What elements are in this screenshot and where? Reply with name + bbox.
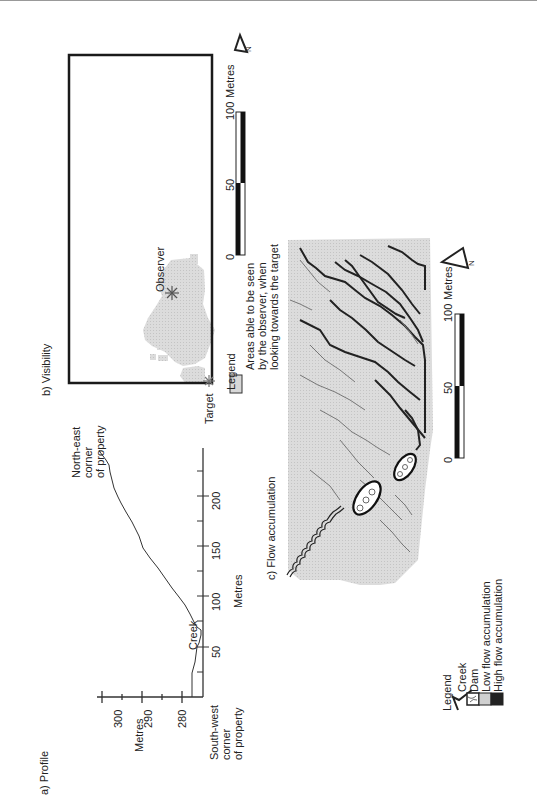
visibility-legend-title: Legend [225, 353, 237, 390]
profile-start-label-3: of property [232, 707, 244, 760]
flow-legend-low: Low flow accumulation [480, 581, 492, 692]
observer-label: Observer [154, 247, 166, 292]
profile-x-tick-200: 200 [210, 492, 222, 510]
flow-scale-bar [455, 314, 464, 458]
visibility-north-label: N [243, 46, 255, 52]
profile-y-tick-280: 280 [176, 710, 188, 728]
profile-creek-label: Creek [187, 621, 199, 650]
profile-x-axis-label: Metres [232, 574, 244, 608]
visibility-scale-100: 100 [224, 102, 236, 120]
visibility-legend-line-2: by the observer, when [256, 262, 268, 370]
profile-y-tick-290: 290 [142, 710, 154, 728]
profile-chart [97, 448, 209, 703]
flow-legend-creek: Creek [456, 663, 468, 692]
flow-north-label: N [466, 260, 478, 266]
flow-scale-50: 50 [442, 382, 454, 394]
visibility-scale-0: 0 [224, 254, 236, 260]
flow-accumulation-map [287, 238, 503, 710]
visibility-scale-bar [236, 112, 245, 255]
observer-marker [165, 286, 179, 300]
flow-scale-unit: Metres [442, 266, 454, 300]
flow-legend-dam: Dam [468, 669, 480, 692]
visibility-title: b) Visibility [40, 344, 52, 396]
profile-y-tick-300: 300 [112, 710, 124, 728]
visibility-legend-line-3: looking towards the target [268, 244, 280, 370]
flow-scale-100: 100 [442, 304, 454, 322]
visibility-scale-50: 50 [224, 179, 236, 191]
profile-start-label-2: corner [220, 729, 232, 760]
flow-title: c) Flow accumulation [265, 477, 277, 580]
flow-legend-symbols [453, 690, 503, 710]
low-flow-legend-swatch [479, 693, 491, 705]
dam-legend-icon [467, 693, 479, 705]
profile-end-label-2: corner [82, 447, 94, 478]
profile-end-label-3: of property [94, 425, 106, 478]
profile-x-tick-100: 100 [210, 593, 222, 611]
visibility-scale-unit: Metres [224, 64, 236, 98]
target-label: Target [203, 393, 215, 424]
visibility-legend-line-1: Areas able to be seen [244, 263, 256, 370]
north-arrow-icon [442, 248, 468, 268]
flow-scale-0: 0 [442, 457, 454, 463]
visibility-map [69, 35, 247, 393]
profile-x-tick-50: 50 [210, 646, 222, 658]
profile-line [99, 450, 201, 697]
profile-title: a) Profile [38, 751, 50, 795]
high-flow-legend-swatch [491, 693, 503, 705]
flow-legend-title: Legend [441, 674, 453, 711]
profile-end-label-1: North-east [70, 427, 82, 478]
profile-x-tick-150: 150 [210, 542, 222, 560]
flow-legend-high: High flow accumulation [492, 579, 504, 692]
profile-start-label-1: South-west [208, 705, 220, 760]
